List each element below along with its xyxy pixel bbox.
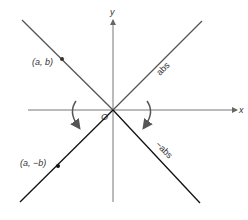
reflection-arrow-right-icon xyxy=(145,101,151,126)
neg-abs-line-lower-right xyxy=(113,110,200,203)
abs-line-upper-right xyxy=(113,21,202,110)
abs-line-label: abs xyxy=(154,60,172,78)
point-a-b-label: (a, b) xyxy=(32,57,53,67)
reflection-arrow-left-icon xyxy=(72,101,78,126)
neg-abs-line-lower-left xyxy=(20,110,113,202)
reflection-diagram: x y O (a, b) (a, −b) abs −abs xyxy=(0,0,248,220)
point-a-b-marker xyxy=(60,57,64,61)
point-a-neg-b-marker xyxy=(56,164,60,168)
x-axis-label: x xyxy=(238,105,244,115)
point-a-neg-b-label: (a, −b) xyxy=(20,158,46,168)
y-axis-label: y xyxy=(109,7,115,17)
